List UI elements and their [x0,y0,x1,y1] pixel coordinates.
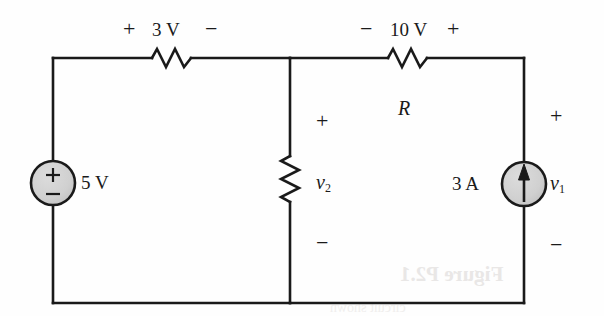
circuit-schematic-svg [0,0,604,316]
polarity-plus-v1: + [550,105,562,127]
polarity-minus-v2: − [316,232,328,254]
polarity-minus-10v: − [360,18,372,40]
circuit-diagram-canvas: Figure P2.1 circuit shown [0,0,604,316]
resistor-label-R: R [398,98,410,118]
value-label-3v: 3 V [152,20,180,39]
voltage-label-v1-subscript: 1 [559,182,565,196]
voltage-label-v1: v1 [550,173,565,195]
voltage-source-circle [31,161,75,205]
value-label-3a: 3 A [452,174,479,193]
polarity-plus-3v: + [123,18,135,40]
value-label-5v: 5 V [81,173,109,192]
voltage-source-symbol-5v [31,161,75,205]
voltage-label-v2: v2 [316,172,331,194]
value-label-10v: 10 V [390,20,427,39]
voltage-label-v2-subscript: 2 [325,181,331,195]
resistor-symbol-10v [388,49,427,67]
polarity-minus-3v: − [205,18,217,40]
polarity-plus-v2: + [316,110,328,132]
voltage-label-v1-symbol: v [550,172,559,194]
voltage-label-v2-symbol: v [316,171,325,193]
polarity-minus-v1: − [550,234,562,256]
resistor-symbol-v2 [281,156,299,202]
polarity-plus-10v: + [447,18,459,40]
current-source-symbol-3a [502,162,546,206]
resistor-symbol-3v [152,49,191,67]
